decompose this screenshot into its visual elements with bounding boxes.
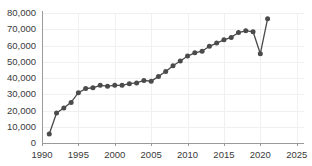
data-point [98, 83, 103, 88]
data-point [163, 69, 168, 74]
x-axis-tickmark [224, 143, 225, 146]
data-point [258, 51, 263, 56]
data-point [69, 100, 74, 105]
data-point [192, 50, 197, 55]
x-axis-tickmark [188, 143, 189, 146]
data-point [90, 85, 95, 90]
data-point [229, 35, 234, 40]
x-axis-tickmark [151, 143, 152, 146]
data-series-layer [0, 0, 312, 166]
data-point [134, 80, 139, 85]
data-point [127, 81, 132, 86]
data-point [200, 49, 205, 54]
data-point [141, 78, 146, 83]
data-point [112, 83, 117, 88]
x-axis-tickmark [115, 143, 116, 146]
data-point [265, 16, 270, 21]
data-point [83, 86, 88, 91]
data-point [120, 83, 125, 88]
data-point [156, 74, 161, 79]
x-axis-tickmark [260, 143, 261, 146]
x-axis-tickmark [42, 143, 43, 146]
data-point [185, 54, 190, 59]
data-point [214, 41, 219, 46]
data-point [105, 84, 110, 89]
data-point [236, 30, 241, 35]
data-point [178, 58, 183, 63]
data-point [47, 132, 52, 137]
data-point [76, 90, 81, 95]
data-point [149, 79, 154, 84]
data-point [221, 37, 226, 42]
data-point [251, 29, 256, 34]
data-point [54, 110, 59, 115]
data-point [243, 28, 248, 33]
data-point [61, 106, 66, 111]
chart-container: 010,00020,00030,00040,00050,00060,00070,… [0, 0, 312, 166]
data-point [171, 63, 176, 68]
x-axis-tickmark [297, 143, 298, 146]
data-point [207, 44, 212, 49]
x-axis-tickmark [78, 143, 79, 146]
